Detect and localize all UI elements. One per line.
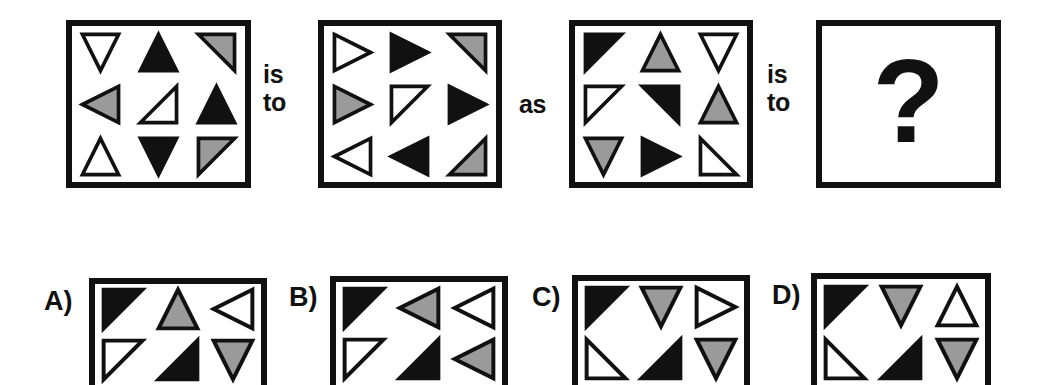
grid-cell [324, 26, 381, 78]
triangle-right-white-icon [694, 285, 738, 329]
grid-cell [575, 130, 632, 182]
grid-cell [929, 279, 985, 332]
triangle-up-black-icon [196, 84, 237, 125]
right-triangle-nw-white-icon [389, 84, 430, 125]
option-d-box[interactable] [811, 273, 991, 385]
right-triangle-nw-gray-icon [196, 136, 237, 177]
right-triangle-se-gray-icon [447, 136, 488, 177]
triangle-down-gray-icon [935, 337, 979, 381]
grid-cell [150, 335, 205, 385]
grid-cell [381, 130, 438, 182]
option-c-label: C) [532, 284, 561, 311]
stimulus-panel-a [66, 20, 251, 188]
grid-cell [206, 284, 261, 335]
triangle-left-gray-icon [80, 84, 121, 125]
triangle-right-white-icon [332, 32, 373, 73]
right-triangle-se-white-icon [138, 84, 179, 125]
triangle-down-gray-icon [583, 136, 624, 177]
grid-cell [381, 78, 438, 130]
option-a-label: A) [44, 288, 73, 315]
grid-cell [187, 78, 245, 130]
grid-cell [439, 78, 496, 130]
grid-cell [336, 334, 391, 385]
grid-cell [690, 26, 747, 78]
triangle-left-white-icon [211, 287, 255, 331]
grid-cell [817, 279, 873, 332]
triangle-up-white-icon [80, 136, 121, 177]
right-triangle-nw-white-icon [583, 84, 624, 125]
triangle-up-black-icon [138, 32, 179, 73]
right-triangle-ne-gray-icon [196, 32, 237, 73]
connector-is-to-2: is to [767, 60, 790, 116]
triangle-up-white-icon [935, 284, 979, 328]
grid-cell [690, 130, 747, 182]
option-a-box[interactable] [89, 278, 267, 385]
grid-cell [391, 282, 446, 334]
right-triangle-nw-black-icon [101, 287, 145, 331]
grid-cell [439, 130, 496, 182]
triangle-down-gray-icon [211, 338, 255, 382]
grid-cell [72, 26, 130, 78]
option-b-box[interactable] [330, 276, 508, 385]
shape-grid [95, 284, 261, 385]
option-d-label: D) [772, 282, 801, 309]
triangle-left-gray-icon [397, 286, 441, 330]
grid-cell [632, 26, 689, 78]
grid-cell [187, 26, 245, 78]
shape-grid [324, 26, 496, 182]
grid-cell [130, 78, 188, 130]
option-b-label: B) [289, 284, 318, 311]
connector-as: as [519, 90, 546, 118]
grid-cell [873, 332, 929, 385]
grid-cell [206, 335, 261, 385]
grid-cell [72, 130, 130, 182]
grid-cell [150, 284, 205, 335]
grid-cell [187, 130, 245, 182]
grid-cell [72, 78, 130, 130]
shape-grid [817, 279, 985, 385]
triangle-up-gray-icon [156, 287, 200, 331]
right-triangle-sw-white-icon [823, 337, 867, 381]
right-triangle-nw-white-icon [342, 337, 386, 381]
triangle-down-gray-icon [879, 284, 923, 328]
grid-cell [575, 26, 632, 78]
grid-cell [929, 332, 985, 385]
triangle-up-gray-icon [698, 84, 739, 125]
grid-cell [439, 26, 496, 78]
triangle-down-white-icon [80, 32, 121, 73]
grid-cell [447, 334, 502, 385]
grid-cell [95, 335, 150, 385]
answer-panel: ? [816, 20, 1001, 188]
grid-cell [690, 78, 747, 130]
triangle-down-gray-icon [639, 285, 683, 329]
shape-grid [336, 282, 502, 385]
triangle-down-white-icon [698, 32, 739, 73]
stimulus-panel-b [318, 20, 502, 188]
grid-cell [575, 78, 632, 130]
grid-cell [578, 333, 633, 385]
option-c-box[interactable] [572, 275, 750, 385]
triangle-right-black-icon [447, 84, 488, 125]
grid-cell [633, 281, 688, 333]
grid-cell [130, 26, 188, 78]
right-triangle-ne-black-icon [640, 84, 681, 125]
grid-cell [130, 130, 188, 182]
grid-cell [95, 284, 150, 335]
right-triangle-nw-black-icon [583, 32, 624, 73]
grid-cell [873, 279, 929, 332]
connector-line-1: is [263, 60, 286, 88]
connector-line-2: to [767, 88, 790, 116]
connector-line-1: is [767, 60, 790, 88]
triangle-left-black-icon [389, 136, 430, 177]
right-triangle-sw-white-icon [584, 337, 628, 381]
triangle-left-white-icon [452, 286, 496, 330]
connector-as-label: as [519, 90, 546, 118]
grid-cell [817, 332, 873, 385]
grid-cell [336, 282, 391, 334]
grid-cell [324, 130, 381, 182]
right-triangle-se-black-icon [639, 337, 683, 381]
grid-cell [381, 26, 438, 78]
triangle-down-gray-icon [694, 337, 738, 381]
right-triangle-ne-gray-icon [447, 32, 488, 73]
grid-cell [324, 78, 381, 130]
